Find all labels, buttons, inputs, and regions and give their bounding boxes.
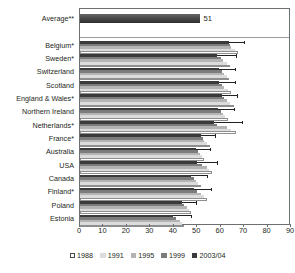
error-bar-cap xyxy=(237,94,238,97)
error-bar-cap xyxy=(191,215,192,218)
bar-group xyxy=(80,108,291,121)
bar-group xyxy=(80,201,291,214)
error-bar-cap xyxy=(235,81,236,84)
category-label-poland: Poland xyxy=(52,202,74,209)
legend-swatch-icon xyxy=(192,253,198,259)
error-bar-line xyxy=(219,82,234,83)
x-tick-label: 20 xyxy=(122,227,130,234)
category-label-france: France* xyxy=(49,135,74,142)
x-tick-label: 60 xyxy=(216,227,224,234)
legend-label: 1999 xyxy=(169,252,185,259)
error-bar-line xyxy=(201,135,215,136)
bar-group xyxy=(80,41,291,54)
error-bar-line xyxy=(222,95,237,96)
category-label-netherlands: Netherlands* xyxy=(32,122,74,129)
error-bar-cap xyxy=(217,161,218,164)
category-label-finland: Finland* xyxy=(48,188,74,195)
error-bar-cap xyxy=(234,108,235,111)
legend-swatch-icon xyxy=(131,253,137,259)
x-axis-tick-labels: 0102030405060708090 xyxy=(79,227,290,239)
bar-group xyxy=(80,134,291,147)
legend-item[interactable]: 2003/04 xyxy=(192,252,226,259)
error-bar-line xyxy=(197,162,217,163)
bar-group xyxy=(80,148,291,161)
average-bar xyxy=(80,14,200,23)
error-bar-cap xyxy=(235,68,236,71)
category-label-average: Average** xyxy=(42,15,74,22)
error-bar-line xyxy=(191,175,206,176)
plot-area: 51 xyxy=(79,8,290,225)
legend-label: 2003/04 xyxy=(199,252,225,259)
error-bar-line xyxy=(194,189,212,190)
legend-label: 1995 xyxy=(138,252,154,259)
bar-group xyxy=(80,188,291,201)
error-bar-line xyxy=(182,202,196,203)
bar-group xyxy=(80,54,291,67)
error-bar-cap xyxy=(211,188,212,191)
category-label-column: Average**Belgium*Sweden*SwitzerlandScotl… xyxy=(0,0,77,225)
x-tick-label: 0 xyxy=(77,227,81,234)
x-tick-label: 90 xyxy=(286,227,294,234)
x-tick-label: 10 xyxy=(98,227,106,234)
category-label-canada: Canada xyxy=(49,175,74,182)
category-label-england-wales: England & Wales* xyxy=(16,95,74,102)
x-tick-label: 50 xyxy=(192,227,200,234)
legend-label: 1991 xyxy=(108,252,124,259)
chart-legend: 19881991199519992003/04 xyxy=(0,252,295,259)
error-bar-cap xyxy=(236,54,237,57)
category-label-usa: USA xyxy=(59,162,74,169)
category-label-australia: Australia xyxy=(46,148,74,155)
bar-group xyxy=(80,68,291,81)
bar-group xyxy=(80,121,291,134)
legend-item[interactable]: 1988 xyxy=(70,252,94,259)
bar-group xyxy=(80,81,291,94)
bar-group xyxy=(80,94,291,107)
bar-chart: Average**Belgium*Sweden*SwitzerlandScotl… xyxy=(0,0,295,273)
x-tick-label: 80 xyxy=(262,227,270,234)
bar-group xyxy=(80,175,291,188)
bar-group xyxy=(80,161,291,174)
legend-swatch-icon xyxy=(161,253,167,259)
x-tick-label: 40 xyxy=(169,227,177,234)
error-bar-cap xyxy=(207,175,208,178)
x-tick-label: 30 xyxy=(145,227,153,234)
error-bar-line xyxy=(217,55,236,56)
error-bar-cap xyxy=(210,148,211,151)
error-bar-cap xyxy=(242,121,243,124)
legend-item[interactable]: 1991 xyxy=(100,252,124,259)
bar-group xyxy=(80,215,291,228)
error-bar-line xyxy=(229,42,244,43)
error-bar-cap xyxy=(215,134,216,137)
category-label-northern-ireland: Northern Ireland xyxy=(22,108,74,115)
error-bar-cap xyxy=(196,201,197,204)
category-label-estonia: Estonia xyxy=(50,215,74,222)
error-bar-line xyxy=(218,109,233,110)
category-label-switzerland: Switzerland xyxy=(37,68,74,75)
error-bar-cap xyxy=(244,41,245,44)
error-bar-line xyxy=(173,215,192,216)
error-bar-line xyxy=(214,122,242,123)
error-bar-line xyxy=(196,149,210,150)
legend-label: 1988 xyxy=(77,252,93,259)
legend-swatch-icon xyxy=(100,253,106,259)
error-bar-line xyxy=(219,69,234,70)
x-tick-label: 70 xyxy=(239,227,247,234)
legend-swatch-icon xyxy=(70,253,76,259)
category-label-sweden: Sweden* xyxy=(45,55,74,62)
legend-item[interactable]: 1995 xyxy=(131,252,155,259)
category-label-belgium: Belgium* xyxy=(45,42,74,49)
average-value-label: 51 xyxy=(204,15,212,23)
legend-item[interactable]: 1999 xyxy=(161,252,185,259)
category-label-scotland: Scotland xyxy=(46,82,74,89)
